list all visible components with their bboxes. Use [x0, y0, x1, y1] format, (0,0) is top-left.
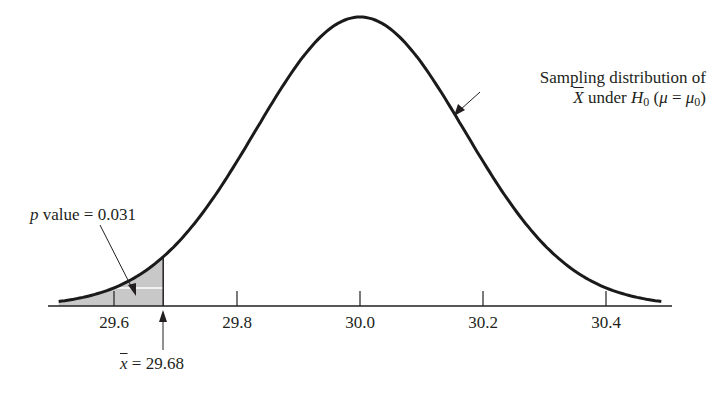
distribution-label: Sampling distribution of X under H0 (μ =… — [486, 68, 706, 108]
xbar-arrow — [159, 310, 167, 350]
paren-close: ) — [700, 88, 706, 107]
x-tick-label: 30.2 — [468, 313, 498, 333]
xbar-value: = 29.68 — [128, 354, 184, 373]
x-tick-label: 30.0 — [345, 313, 375, 333]
pvalue-label: p value = 0.031 — [30, 205, 136, 225]
distribution-label-line1: Sampling distribution of — [486, 68, 706, 88]
normal-curve-chart — [0, 0, 720, 393]
sampling-distribution-curve — [59, 17, 662, 302]
mu-symbol: μ — [659, 88, 668, 107]
x-tick-label: 30.4 — [591, 313, 621, 333]
x-tick-label: 29.8 — [222, 313, 252, 333]
h-symbol: H — [631, 88, 643, 107]
xbar-X: X — [573, 88, 583, 107]
paren-open: ( — [649, 88, 659, 107]
pvalue-text: value = 0.031 — [39, 205, 136, 224]
x-axis-ticks — [114, 291, 606, 306]
xbar-label: x = 29.68 — [120, 354, 184, 374]
under-text: under — [584, 88, 631, 107]
pvalue-p: p — [30, 205, 39, 224]
distribution-arrow — [454, 92, 480, 116]
x-tick-label: 29.6 — [99, 313, 129, 333]
distribution-label-line2: X under H0 (μ = μ0) — [486, 88, 706, 108]
xbar-symbol: x — [120, 354, 128, 373]
equals: = — [668, 88, 686, 107]
